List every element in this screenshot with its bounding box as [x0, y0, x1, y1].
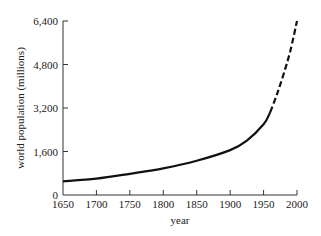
x-tick-label: 1900 — [219, 198, 242, 210]
y-tick-label: 4,800 — [33, 59, 58, 71]
x-axis-label: year — [171, 214, 190, 226]
x-tick-label: 1650 — [52, 198, 75, 210]
x-axis: 16501700175018001850190019502000 — [52, 190, 309, 210]
x-tick-label: 1750 — [119, 198, 142, 210]
x-tick-label: 2000 — [286, 198, 309, 210]
projected-line — [270, 21, 297, 112]
y-tick-label: 3,200 — [33, 102, 58, 114]
x-tick-label: 1800 — [152, 198, 175, 210]
x-tick-label: 1700 — [85, 198, 108, 210]
y-axis: 01,6003,2004,8006,400 — [33, 15, 68, 201]
observed-line — [63, 112, 270, 181]
y-axis-label: world population (millions) — [14, 47, 27, 169]
x-tick-label: 1850 — [186, 198, 209, 210]
x-tick-label: 1950 — [253, 198, 276, 210]
data-series — [63, 21, 297, 181]
population-chart: 01,6003,2004,8006,400 165017001750180018… — [0, 0, 321, 236]
y-tick-label: 1,600 — [33, 146, 58, 158]
y-tick-label: 6,400 — [33, 15, 58, 27]
